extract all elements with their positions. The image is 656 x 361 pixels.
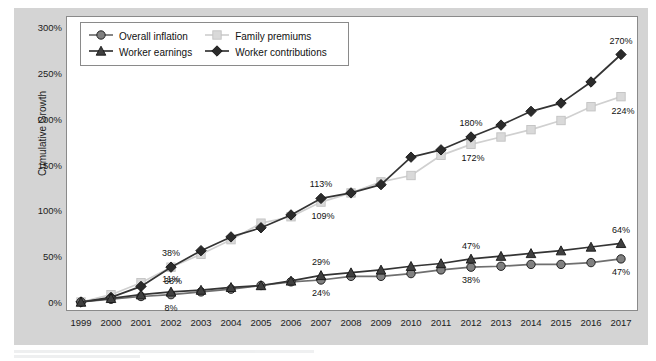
- x-tick-label: 2001: [130, 317, 151, 328]
- x-tick-label: 2016: [580, 317, 601, 328]
- triangle-icon: [88, 45, 114, 57]
- chart-legend: Overall inflation Family premiums Worker…: [80, 22, 349, 66]
- x-tick-label: 2015: [550, 317, 571, 328]
- data-label: 8%: [164, 303, 177, 313]
- x-tick-label: 2012: [460, 317, 481, 328]
- data-label: 113%: [310, 179, 332, 189]
- data-label: 180%: [459, 118, 482, 128]
- legend-marker-worker-contributions: [204, 44, 235, 60]
- chart-screenshot: Cumulative Growth 0%50%100%150%200%250%3…: [0, 0, 656, 361]
- x-tick-label: 2010: [400, 317, 421, 328]
- y-tick-label: 250%: [38, 67, 62, 78]
- data-label: 38%: [162, 248, 180, 258]
- y-tick-label: 300%: [38, 22, 62, 33]
- legend-marker-worker-earnings: [88, 44, 119, 60]
- series-overall-inflation: [77, 255, 625, 306]
- x-tick-label: 2005: [250, 317, 271, 328]
- x-tick-label: 2004: [220, 317, 241, 328]
- x-tick-label: 2017: [610, 317, 631, 328]
- square-icon: [204, 29, 230, 41]
- figure-background: Cumulative Growth 0%50%100%150%200%250%3…: [14, 8, 648, 345]
- data-label: 270%: [609, 36, 632, 46]
- legend-label-worker-contributions: Worker contributions: [235, 44, 339, 60]
- legend-row: Overall inflation Family premiums: [88, 28, 339, 44]
- circle-icon: [88, 29, 114, 41]
- y-axis-ticks: Cumulative Growth 0%50%100%150%200%250%3…: [14, 16, 62, 311]
- data-label: 172%: [461, 153, 484, 163]
- note-line: [14, 355, 140, 358]
- x-tick-label: 2000: [100, 317, 121, 328]
- legend-label-family-premiums: Family premiums: [235, 28, 339, 44]
- x-tick-label: 2014: [520, 317, 541, 328]
- x-axis-ticks: 1999200020012002200320042005200620072008…: [66, 315, 638, 331]
- legend-marker-overall-inflation: [88, 28, 119, 44]
- x-tick-label: 2003: [190, 317, 211, 328]
- legend-label-worker-earnings: Worker earnings: [119, 44, 204, 60]
- x-tick-label: 2008: [340, 317, 361, 328]
- y-tick-label: 0%: [48, 297, 62, 308]
- data-label: 109%: [311, 211, 334, 221]
- x-tick-label: 2006: [280, 317, 301, 328]
- x-tick-label: 2007: [310, 317, 331, 328]
- note-line: [14, 350, 314, 353]
- y-tick-label: 50%: [43, 251, 62, 262]
- data-label: 64%: [612, 225, 630, 235]
- diamond-icon: [204, 45, 230, 57]
- data-label: 24%: [312, 288, 330, 298]
- legend-label-overall-inflation: Overall inflation: [119, 28, 204, 44]
- data-label: 38%: [462, 275, 480, 285]
- x-tick-label: 2002: [160, 317, 181, 328]
- x-tick-label: 2009: [370, 317, 391, 328]
- source-note-cropped: [14, 350, 314, 357]
- x-tick-label: 2013: [490, 317, 511, 328]
- y-tick-label: 200%: [38, 113, 62, 124]
- data-label: 11%: [162, 274, 179, 284]
- legend-marker-family-premiums: [204, 28, 235, 44]
- data-label: 224%: [611, 106, 634, 116]
- y-tick-label: 100%: [38, 205, 62, 216]
- data-label: 47%: [462, 241, 480, 251]
- data-label: 47%: [612, 267, 630, 277]
- data-label: 29%: [312, 257, 330, 267]
- x-tick-label: 2011: [431, 317, 451, 328]
- legend-row: Worker earnings Worker contributions: [88, 44, 339, 60]
- legend-table: Overall inflation Family premiums Worker…: [88, 28, 339, 60]
- y-tick-label: 150%: [38, 159, 62, 170]
- x-tick-label: 1999: [70, 317, 91, 328]
